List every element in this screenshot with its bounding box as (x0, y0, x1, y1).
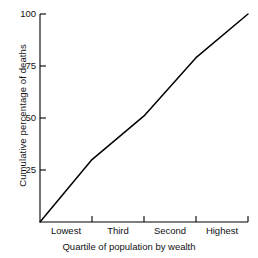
data-line-cumulative-deaths (40, 14, 248, 222)
x-axis-tick-labels: Lowest Third Second Highest (0, 225, 258, 239)
x-tick-label-second: Second (144, 225, 196, 237)
x-tick-label-highest: Highest (196, 225, 248, 237)
x-tick-label-lowest: Lowest (40, 225, 92, 237)
x-axis-ticks (92, 216, 248, 222)
x-axis-title: Quartile of population by wealth (0, 241, 258, 252)
x-tick-label-third: Third (92, 225, 144, 237)
plot-area (0, 0, 258, 258)
y-axis-ticks (40, 14, 46, 170)
chart-figure: Cumulative percentage of deaths 100 75 5… (0, 0, 258, 258)
